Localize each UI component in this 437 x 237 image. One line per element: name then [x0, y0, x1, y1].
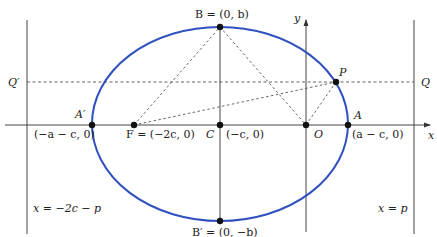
- label-left-directrix: x = −2c − p: [33, 202, 101, 215]
- label-c: C: [206, 128, 215, 141]
- label-a-prime-coord: (−a − c, 0): [34, 128, 95, 141]
- point-p: [333, 79, 339, 85]
- point-c: [217, 122, 223, 128]
- label-f: F = (−2c, 0): [126, 128, 195, 141]
- label-c-coord: (−c, 0): [226, 128, 264, 141]
- f-to-b-dashed: [134, 27, 220, 125]
- label-x-axis: x: [428, 129, 435, 142]
- label-b: B = (0, b): [195, 8, 249, 21]
- label-a: A: [353, 109, 362, 122]
- label-q: Q: [421, 76, 430, 89]
- point-o: [303, 122, 309, 128]
- point-b: [217, 24, 223, 30]
- b-to-o-dashed: [220, 27, 306, 125]
- label-a-coord: (a − c, 0): [352, 128, 404, 141]
- label-p: P: [338, 66, 347, 79]
- label-q-prime: Q′: [8, 76, 20, 89]
- ellipse-diagram: B = (0, b) B′ = (0, −b) A′ (−a − c, 0) A…: [0, 0, 437, 237]
- label-y-axis: y: [293, 12, 301, 25]
- label-a-prime: A′: [74, 108, 86, 121]
- label-right-directrix: x = p: [378, 202, 407, 215]
- point-b-prime: [217, 218, 223, 224]
- point-a: [345, 122, 351, 128]
- label-b-prime: B′ = (0, −b): [192, 226, 258, 237]
- label-o: O: [314, 128, 323, 141]
- o-to-p-dashed: [306, 82, 336, 125]
